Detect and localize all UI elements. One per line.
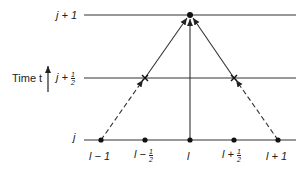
node-l-half-plus [231, 137, 236, 142]
solid-arrow-right [193, 18, 234, 78]
node-l-half-minus [142, 137, 147, 142]
solid-arrow-left [145, 18, 187, 78]
level-label-j-plus-1: j + 1 [56, 9, 77, 21]
dashed-arrow-right [236, 80, 278, 140]
point-label-l-minus-1: l − 1 [89, 150, 110, 162]
point-label-l-minus-half: l − 12 [134, 148, 153, 163]
level-label-j: j [73, 131, 75, 143]
node-l+1 [275, 137, 280, 142]
node-l [187, 137, 192, 142]
node-l-1 [98, 137, 103, 142]
level-label-j-plus-half: j + 12 [56, 71, 75, 86]
stencil-diagram [0, 0, 308, 170]
point-label-l: l [187, 150, 189, 162]
time-axis-label: Time t [12, 72, 42, 84]
node-top [187, 12, 193, 18]
point-label-l-plus-half: l + 12 [222, 148, 241, 163]
dashed-arrow-left [101, 80, 143, 140]
point-label-l-plus-1: l + 1 [266, 150, 287, 162]
